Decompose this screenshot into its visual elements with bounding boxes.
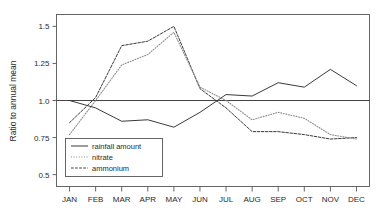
y-tick-label: 0.75 [34, 134, 50, 143]
x-axis: JANFEBMARAPRMAYJUNJULAUGSEPOCTNOVDEC [62, 187, 365, 204]
y-tick-label: 1.0 [38, 97, 50, 106]
legend-label-ammonium: ammonium [92, 164, 129, 173]
x-tick-label-apr: APR [140, 195, 157, 204]
y-tick-label: 0.5 [38, 171, 50, 180]
x-tick-label-jul: JUL [219, 195, 234, 204]
series-line-nitrate [70, 32, 357, 139]
legend-label-nitrate: nitrate [92, 153, 113, 162]
x-tick-label-oct: OCT [296, 195, 313, 204]
x-tick-label-aug: AUG [243, 195, 260, 204]
y-axis-title: Ratio to annual mean [8, 60, 18, 141]
x-tick-label-may: MAY [166, 195, 183, 204]
x-tick-label-jan: JAN [62, 195, 77, 204]
x-tick-label-sep: SEP [270, 195, 286, 204]
chart-legend: rainfall amount nitrate ammonium [66, 139, 163, 177]
x-tick-label-feb: FEB [88, 195, 104, 204]
y-axis: 0.50.751.01.251.5 [34, 22, 57, 179]
y-tick-label: 1.25 [34, 59, 50, 68]
legend-label-rainfall-amount: rainfall amount [92, 142, 142, 151]
y-tick-label: 1.5 [38, 22, 50, 31]
line-chart: 0.50.751.01.251.5 JANFEBMARAPRMAYJUNJULA… [0, 0, 386, 216]
x-tick-label-nov: NOV [322, 195, 340, 204]
x-tick-label-mar: MAR [113, 195, 131, 204]
chart-container: 0.50.751.01.251.5 JANFEBMARAPRMAYJUNJULA… [0, 0, 386, 216]
series-line-ammonium [70, 26, 357, 139]
x-tick-label-dec: DEC [348, 195, 365, 204]
x-tick-label-jun: JUN [192, 195, 208, 204]
